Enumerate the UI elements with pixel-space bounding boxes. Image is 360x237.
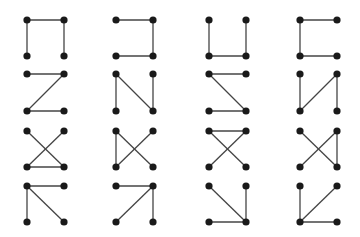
dot-tl (23, 70, 30, 77)
dot-tr (333, 182, 340, 189)
dot-tl (205, 16, 212, 23)
pattern-11 (205, 127, 249, 170)
edge-line (27, 186, 64, 222)
pattern-1 (23, 16, 67, 59)
dot-tr (149, 182, 156, 189)
dot-tr (60, 127, 67, 134)
dot-bl (112, 52, 119, 59)
dot-br (60, 218, 67, 225)
pattern-12 (296, 127, 340, 170)
dot-tr (60, 182, 67, 189)
dot-bl (112, 107, 119, 114)
pattern-6 (112, 70, 156, 114)
dot-tr (242, 70, 249, 77)
dot-br (333, 218, 340, 225)
dot-tl (296, 16, 303, 23)
dot-tl (23, 182, 30, 189)
dot-bl (23, 163, 30, 170)
dot-bl (112, 218, 119, 225)
dot-bl (296, 52, 303, 59)
dot-tl (23, 127, 30, 134)
dot-tr (333, 127, 340, 134)
dot-bl (112, 163, 119, 170)
dot-tl (296, 127, 303, 134)
edge-line (209, 74, 246, 111)
dot-bl (296, 163, 303, 170)
dot-br (60, 107, 67, 114)
dot-tr (149, 127, 156, 134)
dot-bl (23, 107, 30, 114)
dot-tl (112, 127, 119, 134)
path-patterns-diagram (0, 0, 360, 237)
dot-bl (23, 218, 30, 225)
dot-tl (23, 16, 30, 23)
dot-bl (296, 218, 303, 225)
dot-bl (205, 218, 212, 225)
dot-tl (296, 182, 303, 189)
dot-bl (296, 107, 303, 114)
dot-br (242, 107, 249, 114)
dot-br (60, 52, 67, 59)
edge-line (300, 186, 337, 222)
pattern-15 (205, 182, 249, 225)
pattern-9 (23, 127, 67, 170)
dot-tr (333, 16, 340, 23)
edge-line (116, 186, 153, 222)
edge-line (116, 74, 153, 111)
edge-line (209, 186, 246, 222)
dot-tl (112, 70, 119, 77)
pattern-5 (23, 70, 67, 114)
dot-br (149, 52, 156, 59)
dot-tl (296, 70, 303, 77)
dot-tr (60, 16, 67, 23)
dot-tr (333, 70, 340, 77)
pattern-16 (296, 182, 340, 225)
edge-line (27, 74, 64, 111)
pattern-7 (205, 70, 249, 114)
pattern-8 (296, 70, 340, 114)
dot-tl (112, 182, 119, 189)
dot-tr (60, 70, 67, 77)
dot-tl (205, 127, 212, 134)
dot-tl (205, 70, 212, 77)
dot-br (149, 218, 156, 225)
dot-tl (205, 182, 212, 189)
dot-tr (242, 182, 249, 189)
pattern-14 (112, 182, 156, 225)
dot-bl (23, 52, 30, 59)
dot-tr (149, 16, 156, 23)
dot-br (242, 218, 249, 225)
pattern-10 (112, 127, 156, 170)
dot-tr (242, 127, 249, 134)
dot-br (242, 52, 249, 59)
dot-bl (205, 107, 212, 114)
edge-line (300, 74, 337, 111)
dot-br (333, 107, 340, 114)
pattern-4 (296, 16, 340, 59)
dot-br (333, 52, 340, 59)
dot-bl (205, 163, 212, 170)
pattern-3 (205, 16, 249, 59)
dot-bl (205, 52, 212, 59)
dot-tr (242, 16, 249, 23)
dot-tl (112, 16, 119, 23)
pattern-2 (112, 16, 156, 59)
pattern-13 (23, 182, 67, 225)
dot-br (149, 107, 156, 114)
dot-tr (149, 70, 156, 77)
dot-br (333, 163, 340, 170)
dot-br (149, 163, 156, 170)
dot-br (242, 163, 249, 170)
dot-br (60, 163, 67, 170)
